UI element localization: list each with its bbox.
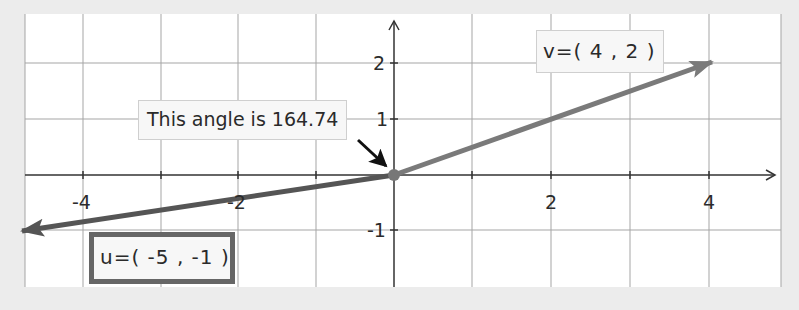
x-tick-label-2: 2 — [545, 193, 557, 212]
x-tick-label-neg2: -2 — [227, 193, 246, 212]
vector-u-label: u=( -5 , -1 ) — [89, 232, 235, 284]
x-tick-label-neg4: -4 — [72, 193, 91, 212]
vector-v-label: v=( 4 , 2 ) — [536, 30, 664, 73]
y-tick-label-neg1: -1 — [367, 221, 386, 240]
y-tick-label-2: 2 — [373, 54, 385, 73]
y-tick-label-1: 1 — [376, 110, 388, 129]
x-tick-label-4: 4 — [703, 193, 715, 212]
angle-annotation-label: This angle is 164.74 — [138, 100, 347, 140]
origin-point — [388, 169, 400, 181]
